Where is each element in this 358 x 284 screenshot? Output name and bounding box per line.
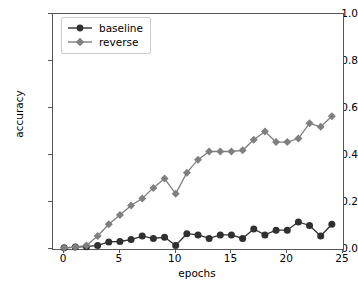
- data-point-circle: [217, 231, 224, 238]
- data-point-circle: [94, 242, 101, 249]
- legend: baseline reverse: [61, 17, 151, 54]
- top-edge-artifact: [0, 0, 358, 5]
- series-reverse: [60, 112, 336, 252]
- series-baseline: [61, 218, 336, 251]
- data-point-circle: [250, 226, 257, 233]
- data-point-circle: [105, 238, 112, 245]
- y-axis-label: accuracy: [13, 69, 25, 159]
- legend-label: reverse: [99, 36, 138, 48]
- data-point-circle: [139, 233, 146, 240]
- x-axis-label: epochs: [52, 267, 342, 279]
- data-point-circle: [116, 238, 123, 245]
- data-point-circle: [273, 227, 280, 234]
- data-point-circle: [239, 235, 246, 242]
- data-point-circle: [295, 218, 302, 225]
- data-point-circle: [317, 233, 324, 240]
- data-point-circle: [228, 231, 235, 238]
- x-tick-label: 15: [215, 252, 245, 264]
- x-tick-label: 20: [271, 252, 301, 264]
- data-point-circle: [183, 230, 190, 237]
- data-point-diamond: [71, 243, 79, 251]
- data-point-circle: [206, 235, 213, 242]
- data-point-diamond: [283, 138, 291, 146]
- data-point-diamond: [216, 147, 224, 155]
- data-point-circle: [328, 221, 335, 228]
- legend-marker-diamond-icon: [67, 36, 93, 48]
- x-tick-label: 10: [160, 252, 190, 264]
- data-point-circle: [261, 231, 268, 238]
- data-point-circle: [306, 222, 313, 229]
- data-point-circle: [195, 231, 202, 238]
- data-point-circle: [284, 227, 291, 234]
- x-tick-label: 25: [327, 252, 357, 264]
- x-tick-label: 5: [104, 252, 134, 264]
- data-point-circle: [172, 242, 179, 249]
- series-line: [64, 116, 332, 248]
- data-point-circle: [150, 235, 157, 242]
- x-tick-label: 0: [48, 252, 78, 264]
- chart-figure: 1.0 0.8 0.6 0.4 0.2 0.0 accuracy 0510152…: [0, 0, 358, 284]
- data-point-circle: [161, 234, 168, 241]
- legend-label: baseline: [99, 22, 143, 34]
- data-point-diamond: [60, 244, 68, 252]
- legend-marker-circle-icon: [67, 22, 93, 34]
- legend-item-baseline: baseline: [67, 21, 143, 35]
- legend-item-reverse: reverse: [67, 35, 143, 49]
- data-point-diamond: [227, 147, 235, 155]
- data-point-circle: [128, 236, 135, 243]
